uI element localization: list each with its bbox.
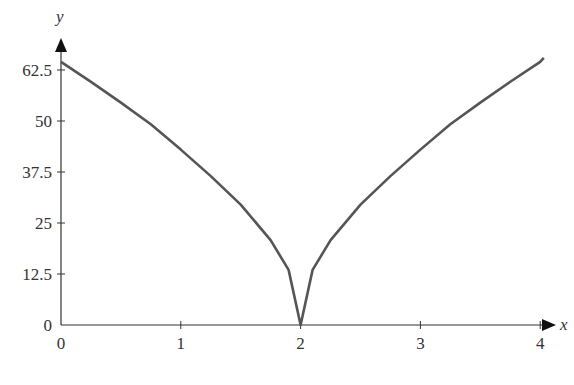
y-tick-label: 37.5: [22, 163, 52, 182]
y-axis-arrow-icon: [55, 38, 67, 52]
x-axis-label: x: [559, 315, 568, 334]
data-series-line: [61, 58, 544, 325]
y-axis-ticks: 012.52537.55062.5: [22, 61, 65, 335]
y-axis-label: y: [54, 7, 64, 26]
x-tick-label: 1: [177, 334, 186, 353]
x-tick-label: 2: [296, 334, 305, 353]
y-tick-label: 12.5: [22, 265, 52, 284]
x-tick-label: 0: [57, 334, 66, 353]
y-tick-label: 50: [35, 112, 52, 131]
line-chart: 012.52537.55062.5 01234 y x: [0, 0, 574, 385]
x-tick-label: 3: [416, 334, 425, 353]
y-tick-label: 25: [35, 214, 52, 233]
x-tick-label: 4: [536, 334, 545, 353]
y-tick-label: 0: [44, 316, 53, 335]
x-axis-arrow-icon: [542, 319, 556, 331]
y-tick-label: 62.5: [22, 61, 52, 80]
